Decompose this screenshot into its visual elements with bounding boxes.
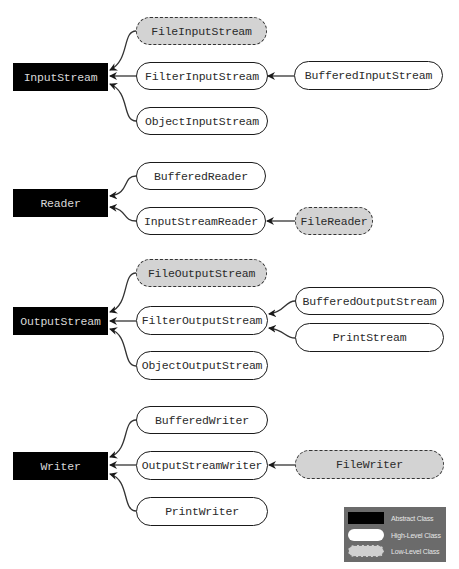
- legend: Abstract Class High-Level Class Low-Leve…: [344, 507, 446, 562]
- node-outputstreamwriter: OutputStreamWriter: [136, 451, 268, 480]
- legend-label: High-Level Class: [391, 532, 441, 539]
- node-inputstream: InputStream: [13, 63, 108, 91]
- node-bufferedoutputstream: BufferedOutputStream: [295, 287, 444, 315]
- edge-fileinputstream-inputstream: [110, 31, 136, 70]
- legend-item-abstract: Abstract Class: [348, 512, 433, 524]
- edge-printstream-filteroutputstream: [269, 328, 295, 338]
- abstract-class-swatch: [348, 512, 384, 524]
- node-filereader: FileReader: [295, 207, 373, 235]
- edge-bufferedwriter-writer: [110, 420, 136, 457]
- legend-label: Abstract Class: [391, 515, 433, 522]
- node-objectoutputstream: ObjectOutputStream: [136, 351, 268, 380]
- node-bufferedinputstream: BufferedInputStream: [294, 61, 443, 90]
- node-printwriter: PrintWriter: [136, 497, 268, 526]
- legend-label: Low-Level Class: [391, 548, 439, 555]
- edge-printwriter-writer: [110, 474, 136, 511]
- node-printstream: PrintStream: [295, 323, 444, 352]
- edge-fileoutputstream-outputstream: [110, 273, 136, 312]
- node-objectinputstream: ObjectInputStream: [136, 107, 268, 135]
- node-reader: Reader: [13, 189, 108, 217]
- edge-objectoutputstream-outputstream: [110, 329, 136, 366]
- node-bufferedwriter: BufferedWriter: [136, 406, 268, 434]
- node-fileoutputstream: FileOutputStream: [136, 259, 267, 287]
- edge-objectinputstream-inputstream: [110, 84, 136, 121]
- legend-item-low-level: Low-Level Class: [348, 545, 439, 557]
- edge-inputstreamreader-reader: [110, 207, 136, 221]
- edge-bufferedreader-reader: [110, 176, 136, 196]
- low-level-class-swatch: [348, 545, 384, 557]
- node-writer: Writer: [13, 452, 108, 480]
- node-fileinputstream: FileInputStream: [136, 17, 267, 45]
- legend-item-high-level: High-Level Class: [348, 529, 441, 541]
- node-filterinputstream: FilterInputStream: [136, 62, 268, 90]
- node-outputstream: OutputStream: [13, 307, 108, 335]
- node-bufferedreader: BufferedReader: [136, 162, 266, 190]
- edge-bufferedoutputstream-filteroutputstream: [269, 301, 295, 314]
- node-inputstreamreader: InputStreamReader: [136, 207, 266, 235]
- high-level-class-swatch: [348, 529, 384, 541]
- node-filteroutputstream: FilterOutputStream: [136, 306, 268, 335]
- node-filewriter: FileWriter: [295, 450, 444, 479]
